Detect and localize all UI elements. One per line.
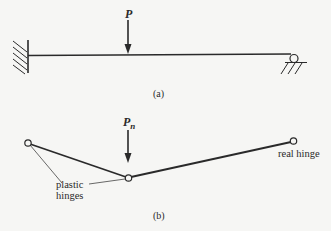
caption-b: (b): [153, 210, 165, 222]
roller-support-icon: [281, 55, 307, 75]
figure-a: P (a): [13, 7, 307, 100]
plastic-hinge-middle-icon: [125, 175, 131, 181]
figure-b: Pn plastic hinges real hinge (b): [25, 115, 320, 222]
real-hinge-label: real hinge: [278, 148, 320, 159]
leader-line-middle: [89, 179, 125, 184]
plastic-hinges-label-line2: hinges: [56, 190, 83, 201]
beam: [28, 54, 291, 56]
beam-diagram: P (a) Pn plastic hinges real hinge (b: [0, 0, 331, 231]
collapsed-segment-left: [30, 144, 126, 177]
load-arrow-icon: [125, 20, 132, 54]
fixed-support-icon: [13, 40, 28, 74]
real-hinge-icon: [290, 138, 296, 144]
collapsed-segment-right: [131, 142, 291, 177]
load-arrow-pn-icon: [125, 130, 132, 163]
load-label-p: P: [125, 7, 133, 21]
plastic-hinges-label-line1: plastic: [56, 179, 84, 190]
load-label-pn: Pn: [123, 115, 135, 131]
caption-a: (a): [153, 88, 164, 100]
leader-line-left: [30, 145, 62, 183]
